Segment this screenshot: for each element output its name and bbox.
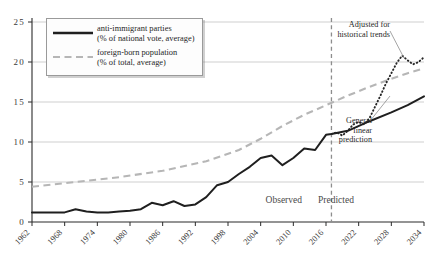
annotation-adjusted-historical-trends: Adjusted for historical trends xyxy=(314,20,390,39)
zone-label-observed: Observed xyxy=(266,195,303,205)
chart-legend: anti-immigrant parties (% of national vo… xyxy=(46,18,203,76)
x-tick-label: 1968 xyxy=(45,227,64,246)
legend-label-secondary: (% of national vote, average) xyxy=(97,34,194,43)
x-tick-label: 2004 xyxy=(241,227,261,247)
x-tick-label: 1986 xyxy=(143,227,162,246)
y-tick-label: 0 xyxy=(19,217,25,227)
annotation-general-linear-prediction: General linear prediction xyxy=(306,116,372,145)
x-tick-label: 2010 xyxy=(274,227,293,246)
x-tick-label: 1992 xyxy=(176,227,195,246)
zone-label-predicted: Predicted xyxy=(318,195,354,205)
y-tick-label: 15 xyxy=(14,97,25,107)
y-tick-label: 25 xyxy=(14,17,25,27)
x-tick-label: 2034 xyxy=(404,227,424,247)
y-tick-label: 10 xyxy=(14,137,25,147)
annotation-line-2: linear xyxy=(353,126,372,135)
legend-swatch-dashed-line xyxy=(51,48,97,61)
x-tick-label: 1974 xyxy=(78,227,98,247)
y-tick-labels: 0510152025 xyxy=(14,17,25,227)
x-tick-label: 2016 xyxy=(306,227,325,246)
x-axis xyxy=(32,222,424,226)
annotation-line-3: prediction xyxy=(339,135,372,144)
x-tick-labels: 1962196819741980198619921998200420102016… xyxy=(12,227,424,247)
x-tick-label: 2022 xyxy=(339,227,358,246)
y-tick-label: 20 xyxy=(14,57,25,67)
legend-label-group: foreign-born population (% of total, ave… xyxy=(97,48,177,69)
annotation-line-2: historical trends xyxy=(337,30,390,39)
annotation-line-1: Adjusted for xyxy=(349,20,390,29)
annotation-line-1: General xyxy=(346,116,372,125)
legend-label-secondary: (% of total, average) xyxy=(97,58,166,67)
legend-swatch-solid-line xyxy=(51,24,97,37)
legend-label-group: anti-immigrant parties (% of national vo… xyxy=(97,24,194,45)
legend-label-primary: foreign-born population xyxy=(97,48,177,57)
legend-item-foreign-born-population: foreign-born population (% of total, ave… xyxy=(51,48,194,69)
y-tick-label: 5 xyxy=(19,177,25,187)
x-tick-label: 1998 xyxy=(208,227,227,246)
legend-label-primary: anti-immigrant parties xyxy=(97,24,172,33)
legend-item-anti-immigrant-parties: anti-immigrant parties (% of national vo… xyxy=(51,24,194,45)
x-tick-label: 1962 xyxy=(12,227,31,246)
chart-container: 0510152025 19621968197419801986199219982… xyxy=(0,0,435,263)
x-tick-label: 1980 xyxy=(110,227,129,246)
x-tick-label: 2028 xyxy=(372,227,391,246)
